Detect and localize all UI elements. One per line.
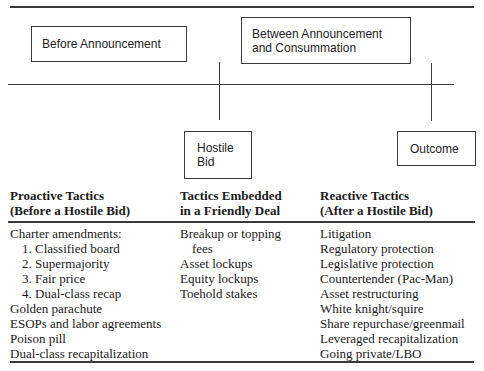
list-item: Litigation (320, 226, 465, 241)
list-item: Going private/LBO (320, 346, 465, 361)
list-item: Asset restructuring (320, 286, 465, 301)
outcome-tick (431, 63, 432, 121)
list-item: Toehold stakes (180, 286, 281, 301)
phase-between-box: Between Announcement and Consummation (241, 17, 411, 64)
list-item: ESOPs and labor agreements (10, 316, 161, 331)
phase-before-announcement-box: Before Announcement (31, 26, 187, 62)
column-header-proactive: Proactive Tactics (Before a Hostile Bid) (10, 188, 130, 218)
header-line: (Before a Hostile Bid) (10, 203, 130, 218)
list-item: 4. Dual-class recap (10, 286, 161, 301)
list-item: 1. Classified board (10, 241, 161, 256)
header-line: in a Friendly Deal (180, 203, 282, 218)
event-outcome-box: Outcome (397, 131, 476, 166)
list-item: Equity lockups (180, 271, 281, 286)
list-item: 2. Supermajority (10, 256, 161, 271)
list-item: Regulatory protection (320, 241, 465, 256)
top-rule (10, 6, 474, 8)
event-hostile-bid-box: Hostile Bid (184, 131, 252, 179)
list-item: Charter amendments: (10, 226, 161, 241)
hostile-bid-label-line2: Bid (197, 155, 234, 169)
header-line: (After a Hostile Bid) (320, 203, 433, 218)
list-item: White knight/squire (320, 301, 465, 316)
column-header-reactive: Reactive Tactics (After a Hostile Bid) (320, 188, 433, 218)
list-item: Breakup or topping (180, 226, 281, 241)
list-item: Dual-class recapitalization (10, 346, 161, 361)
phase-before-label: Before Announcement (42, 37, 161, 51)
list-item: Golden parachute (10, 301, 161, 316)
list-item: 3. Fair price (10, 271, 161, 286)
list-item: Legislative protection (320, 256, 465, 271)
list-item: Poison pill (10, 331, 161, 346)
list-item: Share repurchase/greenmail (320, 316, 465, 331)
hostile-bid-label-line1: Hostile (197, 141, 234, 155)
header-rule (8, 221, 475, 223)
column-reactive-list: Litigation Regulatory protection Legisla… (320, 226, 465, 361)
header-line: Tactics Embedded (180, 188, 282, 203)
header-line: Reactive Tactics (320, 188, 433, 203)
phase-between-label-line2: and Consummation (252, 41, 382, 55)
list-item: Countertender (Pac-Man) (320, 271, 465, 286)
list-item: fees (180, 241, 281, 256)
column-embedded-list: Breakup or topping fees Asset lockups Eq… (180, 226, 281, 301)
list-item: Leveraged recapitalization (320, 331, 465, 346)
column-header-embedded: Tactics Embedded in a Friendly Deal (180, 188, 282, 218)
hostile-bid-tick (219, 62, 220, 120)
column-proactive-list: Charter amendments: 1. Classified board … (10, 226, 161, 361)
bottom-rule (10, 361, 474, 363)
phase-between-label-line1: Between Announcement (252, 27, 382, 41)
header-line: Proactive Tactics (10, 188, 130, 203)
timeline-axis (8, 84, 454, 85)
outcome-label: Outcome (410, 142, 459, 156)
list-item: Asset lockups (180, 256, 281, 271)
